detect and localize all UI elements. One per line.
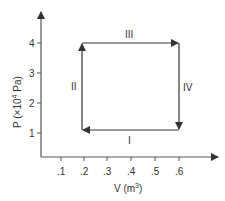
x-tick-label: .1 [57,166,66,177]
pv-diagram: 1 2 3 4 .1 .2 .3 .4 .5 .6 V (m3) P (×104… [0,0,225,201]
x-tick-label: .3 [103,166,112,177]
x-tick-label: .2 [80,166,89,177]
process-label-I: I [128,135,131,146]
x-tick-label: .5 [151,166,160,177]
y-tick-label: 3 [29,68,35,79]
process-label-II: II [71,81,77,92]
y-axis-label: P (×104 Pa) [11,76,23,128]
y-tick-label: 2 [29,98,35,109]
x-tick-label: .4 [127,166,136,177]
y-tick-label: 4 [29,38,35,49]
y-tick-label: 1 [29,128,35,139]
process-label-III: III [125,29,133,40]
x-tick-label: .6 [175,166,184,177]
process-label-IV: IV [183,82,193,93]
x-axis-label: V (m3) [114,182,142,194]
